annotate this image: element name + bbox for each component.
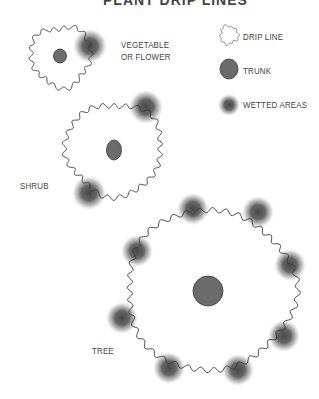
page-title: PLANT DRIP LINES: [103, 0, 248, 8]
vegetable-label-line2: OR FLOWER: [121, 52, 171, 63]
trunk-icon: [107, 140, 122, 160]
trunk-icon: [193, 276, 223, 306]
vegetable-label: VEGETABLE: [121, 40, 169, 51]
tree-plant: [106, 193, 306, 386]
wetted-area-icon: [121, 235, 153, 267]
wetted-area-icon: [177, 193, 209, 225]
wetted-area-icon: [106, 302, 138, 334]
trunk-icon: [220, 59, 238, 79]
shrub-plant: [62, 90, 163, 210]
wetted-area-icon: [73, 29, 107, 63]
drip-lines-diagram: PLANT DRIP LINES VEGETABLE OR FLOWER SHR…: [0, 0, 319, 399]
legend-label-trunk: TRUNK: [243, 66, 271, 77]
legend: [218, 25, 240, 116]
wetted-area-icon: [72, 176, 106, 210]
wetted-area-icon: [242, 196, 274, 228]
wetted-area-icon: [274, 249, 306, 281]
trunk-icon: [54, 49, 67, 63]
legend-label-wetted-areas: WETTED AREAS: [243, 100, 307, 111]
vegetable-plant: [29, 25, 107, 90]
shrub-label: SHRUB: [20, 181, 49, 192]
tree-label: TREE: [92, 346, 114, 357]
drip-line-icon: [220, 25, 240, 46]
legend-label-drip-line: DRIP LINE: [243, 32, 283, 43]
wetted-area-icon: [222, 354, 254, 386]
wetted-area-icon: [218, 94, 240, 116]
